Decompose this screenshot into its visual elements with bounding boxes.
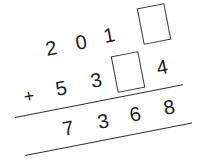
addend2-digit-ones: 4 — [150, 55, 173, 78]
addend2-missing-tens-box[interactable] — [111, 51, 146, 93]
sum-digit-thousands: 7 — [56, 116, 79, 139]
addend2-digit-thousands: 5 — [49, 76, 72, 99]
sum-digit-hundreds: 3 — [91, 109, 114, 132]
addend1-missing-ones-box[interactable] — [137, 3, 172, 45]
plus-operator: + — [17, 84, 40, 107]
sum-digit-ones: 8 — [157, 95, 180, 118]
addend1-digit-tens: 1 — [97, 23, 120, 46]
addend1-digit-thousands: 2 — [39, 36, 62, 59]
addend1-digit-hundreds: 0 — [69, 30, 92, 53]
sum-digit-tens: 6 — [123, 102, 146, 125]
addend2-digit-hundreds: 3 — [84, 68, 107, 91]
